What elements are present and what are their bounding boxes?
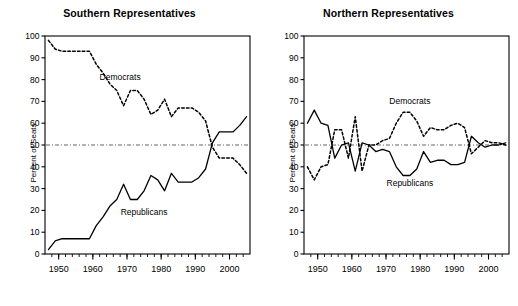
x-tick-label-northern-4: 1990: [444, 264, 464, 274]
plot-area-northern: 0102030405060708090100195019601970198019…: [277, 26, 517, 296]
chart-svg-southern: 0102030405060708090100195019601970198019…: [18, 26, 258, 296]
y-tick-label-northern-6: 60: [289, 118, 299, 128]
x-tick-label-northern-2: 1970: [376, 264, 396, 274]
y-tick-label-northern-1: 10: [289, 227, 299, 237]
x-tick-label-northern-5: 2000: [478, 264, 498, 274]
y-tick-label-southern-3: 30: [30, 184, 40, 194]
x-tick-label-northern-0: 1950: [308, 264, 328, 274]
y-tick-label-southern-5: 50: [30, 140, 40, 150]
y-tick-label-northern-9: 90: [289, 53, 299, 63]
series-line-southern-democrats: [48, 40, 246, 173]
series-line-northern-republicans: [307, 110, 505, 175]
chart-title-southern: Southern Representatives: [0, 7, 259, 19]
y-tick-label-southern-4: 40: [30, 162, 40, 172]
y-tick-label-southern-9: 90: [30, 53, 40, 63]
x-tick-label-southern-0: 1950: [49, 264, 69, 274]
y-tick-label-southern-0: 0: [35, 249, 40, 259]
series-label-northern-republicans: Republicans: [387, 178, 434, 188]
series-label-southern-democrats: Democrats: [100, 72, 141, 82]
y-tick-label-southern-6: 60: [30, 118, 40, 128]
y-tick-label-northern-5: 50: [289, 140, 299, 150]
y-tick-label-northern-4: 40: [289, 162, 299, 172]
x-tick-label-southern-4: 1990: [185, 264, 205, 274]
y-tick-label-northern-0: 0: [294, 249, 299, 259]
y-tick-label-southern-8: 80: [30, 75, 40, 85]
y-tick-label-southern-1: 10: [30, 227, 40, 237]
series-line-northern-democrats: [307, 112, 505, 180]
x-tick-label-southern-1: 1960: [83, 264, 103, 274]
y-tick-label-northern-8: 80: [289, 75, 299, 85]
plot-area-southern: 0102030405060708090100195019601970198019…: [18, 26, 258, 296]
chart-svg-northern: 0102030405060708090100195019601970198019…: [277, 26, 517, 296]
panel-southern: Southern Representatives Percent of Seat…: [0, 0, 259, 306]
series-line-southern-republicans: [48, 117, 246, 250]
series-label-northern-democrats: Democrats: [389, 96, 430, 106]
y-tick-label-southern-10: 100: [25, 31, 39, 41]
x-tick-label-southern-3: 1980: [151, 264, 171, 274]
y-tick-label-northern-2: 20: [289, 205, 299, 215]
x-tick-label-southern-5: 2000: [219, 264, 239, 274]
figure-root: Southern Representatives Percent of Seat…: [0, 0, 518, 306]
y-tick-label-southern-2: 20: [30, 205, 40, 215]
x-tick-label-northern-3: 1980: [410, 264, 430, 274]
y-tick-label-northern-3: 30: [289, 184, 299, 194]
x-tick-label-southern-2: 1970: [117, 264, 137, 274]
y-tick-label-northern-7: 70: [289, 96, 299, 106]
y-tick-label-northern-10: 100: [284, 31, 298, 41]
series-label-southern-republicans: Republicans: [121, 207, 168, 217]
y-tick-label-southern-7: 70: [30, 96, 40, 106]
panel-northern: Northern Representatives Percent of Seat…: [259, 0, 518, 306]
chart-title-northern: Northern Representatives: [259, 7, 518, 19]
x-tick-label-northern-1: 1960: [342, 264, 362, 274]
